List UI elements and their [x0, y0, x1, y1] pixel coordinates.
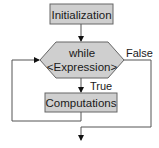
node-condition: while <Expression> [40, 42, 124, 78]
node-condition-line2: <Expression> [47, 61, 118, 73]
true-label: True [90, 80, 112, 92]
node-initialization-label: Initialization [51, 9, 111, 21]
false-label: False [126, 47, 153, 59]
node-initialization: Initialization [50, 4, 113, 24]
node-computations-label: Computations [46, 97, 117, 109]
node-condition-line1: while [68, 47, 95, 59]
flowchart-canvas: Initialization while <Expression> True C… [0, 0, 159, 148]
flowchart-svg: Initialization while <Expression> True C… [0, 0, 159, 148]
node-computations: Computations [45, 93, 117, 112]
